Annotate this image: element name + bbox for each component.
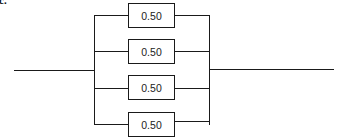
component-box-3: 0.50 — [128, 75, 175, 100]
component-box-2: 0.50 — [128, 39, 175, 64]
component-box-1: 0.50 — [128, 3, 175, 28]
input-wire — [14, 70, 95, 71]
diagram-label: c. — [0, 0, 7, 6]
component-value-2: 0.50 — [141, 46, 161, 58]
branch-3-left-wire — [94, 88, 128, 89]
component-value-4: 0.50 — [141, 119, 161, 131]
right-bus — [209, 15, 210, 125]
branch-3-right-wire — [174, 88, 209, 89]
branch-2-right-wire — [174, 51, 209, 52]
left-bus — [94, 15, 95, 125]
component-value-3: 0.50 — [141, 82, 161, 94]
branch-2-left-wire — [94, 51, 128, 52]
branch-1-left-wire — [94, 15, 128, 16]
branch-1-right-wire — [174, 15, 209, 16]
branch-4-left-wire — [94, 124, 128, 125]
output-wire — [209, 69, 334, 70]
component-box-4: 0.50 — [128, 112, 175, 137]
component-value-1: 0.50 — [141, 10, 161, 22]
branch-4-right-wire — [174, 121, 209, 122]
